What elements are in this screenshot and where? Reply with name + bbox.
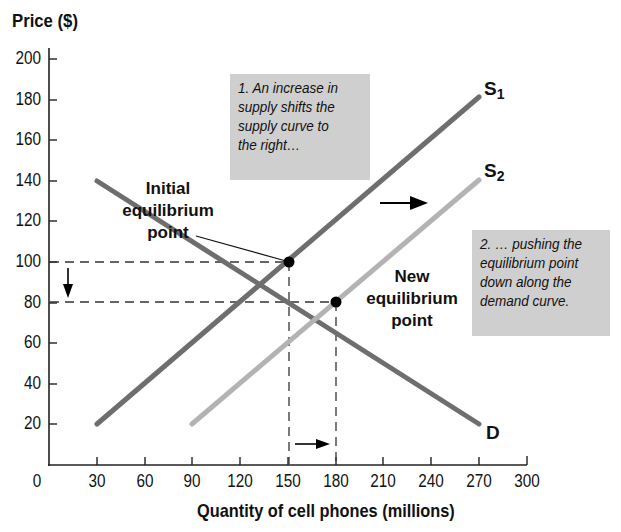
x-tick-label: 270 [454,472,504,490]
s2-label: S2 [484,160,504,184]
x-tick-label: 90 [167,472,217,490]
x-axis-title: Quantity of cell phones (millions) [0,500,621,522]
s1-label: S1 [484,78,504,102]
y-tick-label: 40 [24,374,41,392]
y-tick-label: 20 [24,414,41,432]
initial-equilibrium-label: Initial equilibrium point [118,178,218,244]
annotation-supply-shift: 1. An increase in supply shifts the supp… [230,74,370,180]
x-tick-label: 240 [406,472,456,490]
y-axis-title: Price ($) [12,10,78,32]
x-axis-ticks [97,457,479,465]
y-tick-label: 180 [15,90,41,108]
y-tick-label: 140 [15,171,41,189]
new-equilibrium-label: New equilibrium point [356,266,468,332]
new-equilibrium-dot [331,297,342,308]
y-tick-label: 100 [15,252,41,270]
x-tick-label: 0 [12,472,62,490]
y-tick-label: 120 [15,211,41,229]
initial-equilibrium-dot [284,257,295,268]
y-axis-ticks [49,59,57,424]
annotation-demand-move: 2. … pushing the equilibrium point down … [472,230,610,336]
x-tick-label: 210 [358,472,408,490]
x-tick-label: 150 [263,472,313,490]
quantity-right-arrow [295,439,330,449]
x-tick-label: 30 [72,472,122,490]
x-tick-label: 120 [215,472,265,490]
y-tick-label: 200 [15,49,41,67]
y-tick-label: 160 [15,130,41,148]
x-tick-label: 60 [120,472,170,490]
y-tick-label: 60 [24,333,41,351]
price-down-arrow [63,268,73,298]
y-tick-label: 80 [24,293,41,311]
x-tick-label: 180 [311,472,361,490]
x-tick-label: 300 [502,472,552,490]
shift-right-arrow [380,196,428,210]
d-label: D [486,422,500,444]
guide-lines [50,262,336,464]
